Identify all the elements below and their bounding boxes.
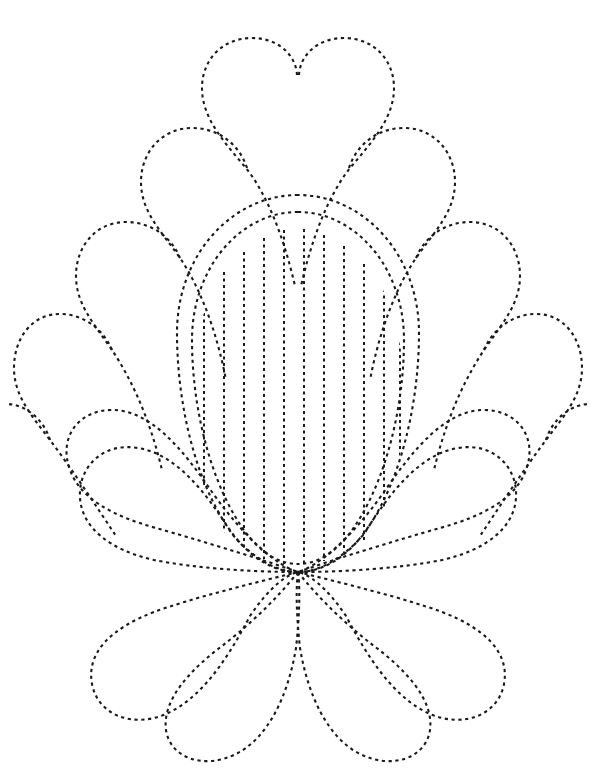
page-background xyxy=(0,0,597,783)
pattern-canvas xyxy=(0,0,597,783)
feathered-flower-pattern xyxy=(0,0,597,783)
